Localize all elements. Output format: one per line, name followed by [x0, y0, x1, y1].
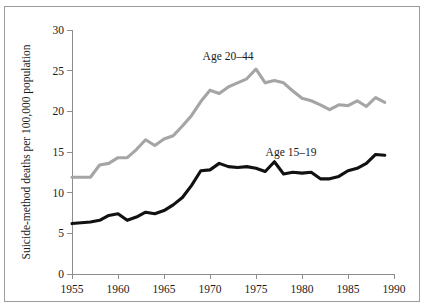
x-tick-label-1990: 1990	[383, 283, 406, 295]
y-tick-label-25: 25	[53, 65, 65, 77]
x-tick-label-1960: 1960	[107, 283, 130, 295]
y-axis-title-text: Suicide-method deaths per 100,000 popula…	[20, 44, 33, 259]
data-series	[72, 69, 385, 224]
y-tick-label-30: 30	[53, 24, 65, 36]
annotation-age-20-44: Age 20–44	[203, 50, 254, 63]
x-tick-label-1965: 1965	[153, 283, 176, 295]
x-tick-label-1985: 1985	[337, 283, 360, 295]
y-tick-label-5: 5	[58, 227, 64, 239]
y-tick-labels: 051015202530	[53, 24, 65, 280]
y-axis-title: Suicide-method deaths per 100,000 popula…	[20, 44, 33, 259]
annotation-age-15-19: Age 15–19	[266, 146, 317, 159]
y-tick-label-10: 10	[53, 187, 65, 199]
y-tick-label-20: 20	[53, 105, 65, 117]
tick-marks	[67, 30, 394, 279]
y-tick-label-15: 15	[53, 146, 65, 158]
line-chart: 051015202530 195519601965197019751980198…	[0, 0, 425, 308]
series-line-age-20-44	[72, 69, 385, 177]
x-tick-label-1970: 1970	[199, 283, 222, 295]
chart-figure: 051015202530 195519601965197019751980198…	[0, 0, 425, 308]
x-tick-label-1955: 1955	[61, 283, 84, 295]
axes	[72, 30, 394, 274]
y-tick-label-0: 0	[58, 268, 64, 280]
x-tick-labels: 19551960196519701975198019851990	[61, 283, 406, 295]
series-line-age-15-19	[72, 154, 385, 223]
axis-lines	[72, 30, 394, 274]
x-tick-label-1975: 1975	[245, 283, 268, 295]
series-annotations: Age 20–44Age 15–19	[203, 50, 317, 159]
x-tick-label-1980: 1980	[291, 283, 314, 295]
